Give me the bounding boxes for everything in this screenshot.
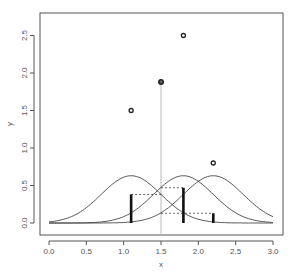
x-tick-label: 0.0 — [43, 247, 55, 256]
highlighted-data-point — [159, 80, 163, 84]
weight-bars — [131, 188, 213, 223]
y-axis: 0.00.51.01.52.02.5 — [20, 29, 34, 228]
y-tick-label: 0.5 — [20, 179, 29, 191]
data-points — [129, 34, 215, 166]
x-tick-label: 0.5 — [81, 247, 93, 256]
kernel-regression-plot: 0.00.51.01.52.02.53.0 0.00.51.01.52.02.5… — [0, 0, 294, 275]
x-tick-label: 1.5 — [155, 247, 167, 256]
x-tick-label: 2.0 — [193, 247, 205, 256]
y-tick-label: 2.5 — [20, 29, 29, 41]
data-point — [129, 109, 133, 113]
y-tick-label: 2.0 — [20, 67, 29, 79]
y-tick-label: 0.0 — [20, 217, 29, 229]
x-tick-label: 1.0 — [118, 247, 130, 256]
plot-svg: 0.00.51.01.52.02.53.0 0.00.51.01.52.02.5… — [0, 0, 294, 275]
y-tick-label: 1.0 — [20, 142, 29, 154]
y-tick-label: 1.5 — [20, 104, 29, 116]
data-point — [181, 34, 185, 38]
y-axis-label: y — [5, 122, 14, 126]
x-tick-label: 3.0 — [267, 247, 279, 256]
dashed-connectors — [131, 188, 213, 214]
x-axis-label: x — [159, 260, 163, 269]
x-tick-label: 2.5 — [230, 247, 242, 256]
x-axis: 0.00.51.01.52.02.53.0 — [43, 241, 279, 256]
data-point — [211, 161, 215, 165]
